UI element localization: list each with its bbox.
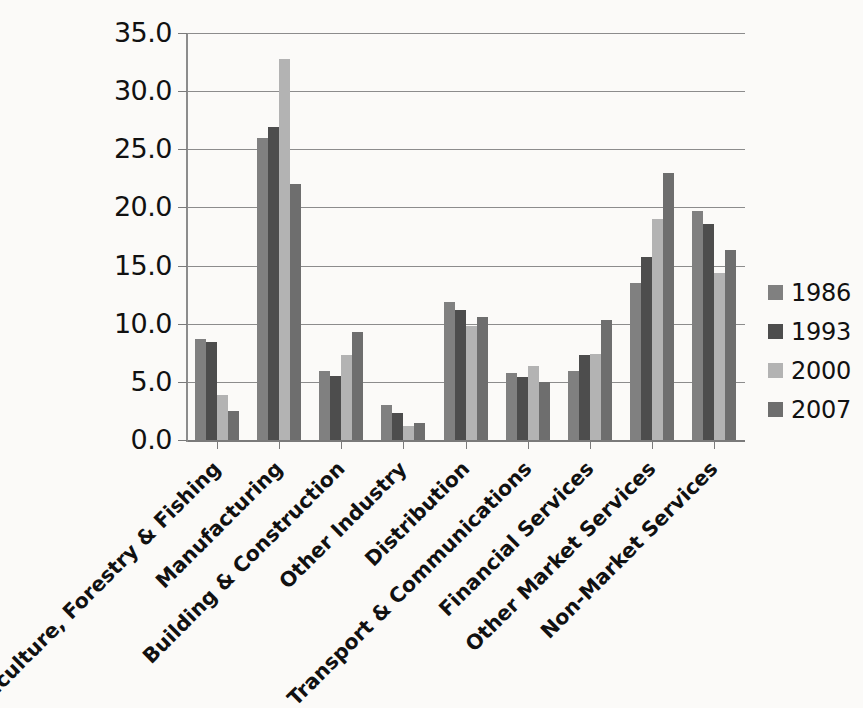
y-tick-mark-20.0 — [178, 207, 187, 208]
x-tick-mark — [714, 440, 715, 449]
x-tick-mark — [279, 440, 280, 449]
legend-item[interactable]: 2000 — [768, 351, 863, 390]
legend-swatch-icon — [768, 324, 783, 339]
legend-label: 1986 — [791, 281, 851, 305]
y-tick-mark-0.0 — [178, 440, 187, 441]
caption-strip — [0, 660, 863, 694]
y-tick-mark-15.0 — [178, 266, 187, 267]
chart-legend: 1986199320002007 — [768, 273, 863, 429]
legend-label: 2007 — [791, 398, 851, 422]
legend-item[interactable]: 2007 — [768, 390, 863, 429]
legend-swatch-icon — [768, 402, 783, 417]
x-tick-mark — [652, 440, 653, 449]
legend-swatch-icon — [768, 363, 783, 378]
legend-item[interactable]: 1986 — [768, 273, 863, 312]
legend-label: 2000 — [791, 359, 851, 383]
y-tick-mark-25.0 — [178, 149, 187, 150]
legend-label: 1993 — [791, 320, 851, 344]
y-tick-mark-5.0 — [178, 382, 187, 383]
y-tick-mark-35.0 — [178, 33, 187, 34]
x-tick-mark — [341, 440, 342, 449]
x-tick-mark — [466, 440, 467, 449]
x-tick-mark — [403, 440, 404, 449]
legend-item[interactable]: 1993 — [768, 312, 863, 351]
legend-swatch-icon — [768, 285, 783, 300]
x-tick-mark — [528, 440, 529, 449]
y-tick-mark-10.0 — [178, 324, 187, 325]
x-tick-mark — [217, 440, 218, 449]
x-tick-mark — [590, 440, 591, 449]
y-tick-mark-30.0 — [178, 91, 187, 92]
